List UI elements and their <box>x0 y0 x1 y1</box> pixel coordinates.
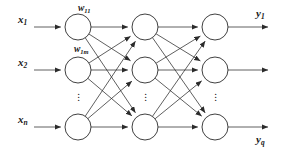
weight-label-w1m: w1m <box>74 45 89 55</box>
input-label-x1: x1 <box>18 14 27 25</box>
neuron-node <box>132 57 158 83</box>
neuron-node <box>202 14 228 40</box>
neuron-node <box>132 114 158 140</box>
ellipsis-hidden-layer: ... <box>141 90 150 100</box>
neuron-node <box>202 114 228 140</box>
output-label-y1: y1 <box>256 8 265 19</box>
neuron-node <box>65 57 91 83</box>
connection-edge <box>155 81 202 119</box>
ellipsis-output-layer: ... <box>211 90 220 100</box>
connection-edge <box>88 81 132 118</box>
input-label-xn: xn <box>18 114 28 125</box>
neuron-node <box>132 14 158 40</box>
connection-edge <box>89 36 131 63</box>
neuron-node <box>202 57 228 83</box>
node-group <box>65 14 228 140</box>
neural-network-diagram: x1 x2 xn w11 w1m y1 yq ... ... ... <box>0 0 282 155</box>
neuron-node <box>65 114 91 140</box>
weight-label-w11: w11 <box>78 4 90 14</box>
output-label-yq: yq <box>256 134 265 145</box>
connection-edge <box>89 34 131 61</box>
ellipsis-input-layer: ... <box>74 90 83 100</box>
connection-edge <box>85 41 135 116</box>
connection-edge <box>152 41 205 116</box>
input-label-x2: x2 <box>18 57 27 68</box>
neuron-node <box>65 14 91 40</box>
connection-edge <box>156 36 200 63</box>
connection-edge <box>155 78 202 116</box>
network-graph-svg <box>0 0 282 155</box>
